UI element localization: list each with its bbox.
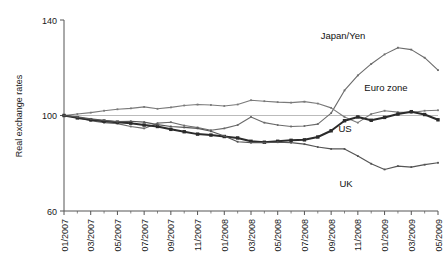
data-point [237,124,239,126]
data-point [143,121,145,123]
data-point [223,127,225,129]
data-point [410,166,412,168]
data-point [103,119,105,121]
data-point [317,123,319,125]
data-point [157,108,159,110]
data-point [424,57,426,59]
data-point [117,108,119,110]
data-point [169,128,172,131]
data-point [90,112,92,114]
data-point [183,125,185,127]
data-point [183,127,185,129]
data-point [370,63,372,65]
data-point [130,120,132,122]
real-exchange-rates-chart: 60100140 01/200703/200705/200707/200709/… [0,0,447,270]
data-point [329,129,332,132]
data-point [330,112,332,114]
data-point [303,138,306,141]
data-point [223,135,225,137]
data-point [263,122,265,124]
x-tick-label: 05/2008 [273,219,283,252]
data-point [250,116,252,118]
y-axis-title-text: Real exchange rates [14,74,24,157]
data-point [103,110,105,112]
x-tick-labels: 01/200703/200705/200707/200709/200711/20… [60,219,444,252]
x-tick-label: 11/2007 [193,219,203,251]
chart-canvas: 60100140 01/200703/200705/200707/200709/… [0,0,447,270]
data-point [397,165,399,167]
series-annotation: UK [339,178,353,189]
data-point [170,121,172,123]
data-point [384,110,386,112]
data-point [424,164,426,166]
x-tick-label: 03/2007 [86,219,96,252]
data-point [437,162,439,164]
x-tick-label: 07/2007 [140,219,150,252]
data-point [356,115,359,118]
y-tick-label: 100 [42,111,57,121]
data-point [90,118,92,120]
data-point [197,104,199,106]
data-point [197,127,199,129]
data-point [76,116,78,118]
data-point [410,110,413,113]
series-annotation: Japan/Yen [321,30,366,41]
data-point [304,101,306,103]
data-point [143,106,145,108]
data-point [330,107,332,109]
data-point [384,169,386,171]
data-point [397,47,399,49]
data-point [170,126,172,128]
data-point [330,148,332,150]
x-tick-label: 03/2009 [407,219,417,252]
data-point [370,113,372,115]
data-point [384,53,386,55]
data-point [117,121,119,123]
data-point [263,100,265,102]
data-point [290,126,292,128]
data-point [237,141,239,143]
data-point [143,127,145,129]
x-tick-label: 01/2007 [60,219,70,252]
data-point [437,109,439,111]
data-point [423,113,426,116]
y-tick-label: 140 [42,16,57,26]
data-point [437,69,439,71]
series-annotation: US [338,123,351,134]
data-point [396,112,399,115]
data-point [290,142,292,144]
x-tick-label: 09/2008 [327,219,337,252]
data-point [357,74,359,76]
data-point [157,124,159,126]
x-tick-label: 05/2007 [113,219,123,252]
x-tick-label: 11/2008 [353,219,363,251]
data-point [277,101,279,103]
data-point [196,132,199,135]
data-point [424,110,426,112]
data-point [236,136,239,139]
data-point [344,148,346,150]
data-point [142,123,145,126]
x-tick-label: 01/2009 [380,219,390,252]
y-axis-title: Real exchange rates [14,74,24,157]
data-point [344,90,346,92]
x-tick-label: 03/2008 [247,219,257,252]
data-point [250,99,252,101]
data-point [209,133,212,136]
x-tick-label: 07/2008 [300,219,310,252]
data-point [210,104,212,106]
data-point [263,142,265,144]
data-point [383,116,386,119]
data-point [76,113,78,115]
data-point [290,102,292,104]
data-point [250,142,252,144]
data-point [183,130,186,133]
data-point [304,125,306,127]
data-point [370,119,373,122]
data-point [343,119,346,122]
data-point [183,105,185,107]
y-tick-label: 60 [47,207,57,217]
data-point [304,143,306,145]
x-tick-label: 09/2007 [166,219,176,252]
data-point [170,106,172,108]
